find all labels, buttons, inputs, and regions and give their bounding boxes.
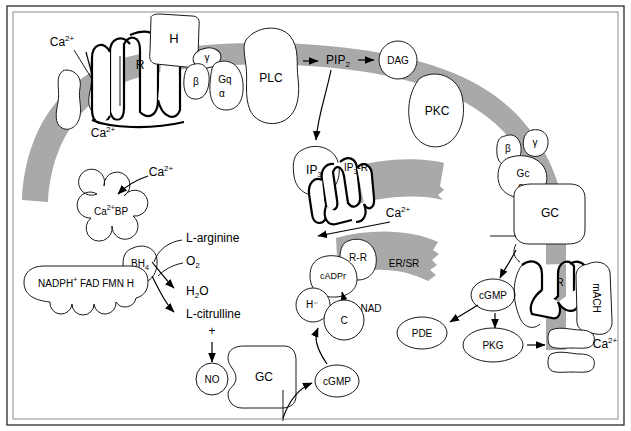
mach-label: mACH (591, 283, 602, 312)
h-minus-label: H⁻ (306, 299, 318, 310)
signalling-pathway-diagram: Ca2+ Ca2+ R H γ β Gq α PLC PIP2 (0, 0, 631, 431)
l-citrulline-label: L-citrulline (186, 307, 241, 321)
ca-to-bp-label: Ca2+ (149, 164, 174, 179)
plus-sign-label: + (208, 324, 215, 338)
gc-to-cgmp-right-arrow (500, 250, 516, 278)
g-protein-alpha-q-subunit[interactable] (210, 61, 243, 110)
rr-label: R-R (349, 252, 367, 263)
pkc-label: PKC (425, 104, 450, 118)
gc-alpha-name-label: Gc (517, 168, 530, 179)
cgmp-to-pde-arrow (450, 305, 478, 322)
no-label: NO (205, 374, 220, 385)
mach-receptor-label: R (556, 277, 563, 288)
calcium-channel-right[interactable] (548, 328, 594, 372)
g-beta-label: β (193, 76, 199, 87)
pkg-label: PKG (482, 340, 503, 351)
gq-label: Gq (218, 74, 231, 85)
l-arginine-leader (154, 240, 182, 262)
o2-label: O2 (186, 254, 200, 270)
soluble-gc-label: GC (255, 370, 273, 384)
g-alpha-q-label: α (219, 88, 225, 99)
cgmp-right-label: cGMP (479, 290, 507, 301)
l-arginine-label: L-arginine (186, 231, 240, 245)
membrane-gc-label: GC (541, 206, 559, 220)
g-gamma-label: γ (205, 52, 210, 63)
cgmp-to-hminus-arrow (316, 328, 327, 364)
g-gamma-right-label: γ (533, 137, 538, 148)
figure-root: Ca2+ Ca2+ R H γ β Gq α PLC PIP2 (0, 0, 631, 431)
ca-right-channel-label: Ca2+ (593, 336, 618, 351)
h-receptor-label: R (136, 58, 145, 72)
er-sr-label: ER/SR (389, 258, 420, 269)
cadpr-label: cADPr (320, 271, 346, 281)
nos-complex-label: NADPH+ FAD FMN H (38, 276, 134, 289)
cgmp-bottom-label: cGMP (323, 376, 351, 387)
nad-label: NAD (360, 303, 381, 314)
plc-label: PLC (259, 71, 283, 85)
g-beta-right-label: β (505, 143, 511, 154)
pip2-to-ip3-arrow (316, 70, 331, 140)
ca-extracellular-label: Ca2+ (50, 34, 75, 49)
histamine-label: H (169, 31, 178, 46)
dag-label: DAG (387, 55, 409, 66)
c-subunit-label: C (340, 315, 347, 326)
h2o-label: H2O (186, 284, 208, 300)
pde-label: PDE (412, 328, 433, 339)
nos-to-h2o-arrow (152, 262, 174, 288)
ca-ip3r-release-label: Ca2+ (386, 205, 411, 220)
ca-intracellular-label: Ca2+ (91, 125, 116, 140)
nos-to-citrulline-arrow (152, 276, 174, 312)
nos-reductase-domain[interactable] (24, 266, 148, 315)
